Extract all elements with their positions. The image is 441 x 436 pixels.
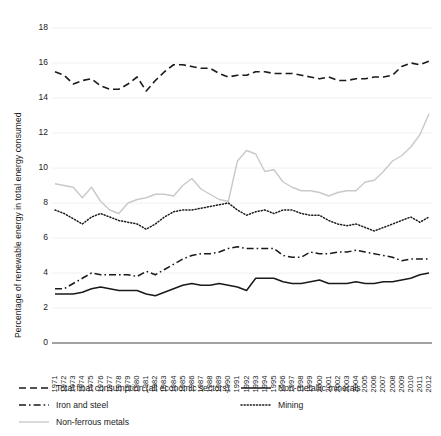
legend-item-non-ferrous-metals[interactable]: Non-ferrous metals bbox=[18, 415, 129, 429]
y-tick-label-10: 10 bbox=[22, 163, 48, 172]
legend-line-icon bbox=[18, 382, 50, 394]
y-tick-label-18: 18 bbox=[22, 23, 48, 32]
plot-area bbox=[52, 24, 432, 347]
legend-item-label: Mining bbox=[278, 400, 303, 410]
legend-line-icon bbox=[240, 382, 272, 394]
legend-item-label: Iron and steel bbox=[56, 400, 108, 410]
legend-item-iron-and-steel[interactable]: Iron and steel bbox=[18, 398, 108, 412]
renewable-energy-line-chart: Percentage of renewable energy in total … bbox=[0, 0, 441, 436]
legend-item-label: Total final consumption (all economic se… bbox=[56, 383, 229, 393]
legend-item-total-final-consumption-all-economic-sectors[interactable]: Total final consumption (all economic se… bbox=[18, 381, 229, 395]
y-tick-label-16: 16 bbox=[22, 58, 48, 67]
y-tick-label-4: 4 bbox=[22, 268, 48, 277]
x-axis-tick-labels: 1971197219731974197519761977197819791980… bbox=[52, 348, 432, 384]
series-line-iron-and-steel bbox=[55, 247, 429, 289]
legend-key-swatch bbox=[18, 382, 50, 394]
legend-item-label: Non-ferrous metals bbox=[56, 417, 129, 427]
y-tick-label-2: 2 bbox=[22, 303, 48, 312]
plot-svg bbox=[52, 24, 432, 347]
legend-line-icon bbox=[240, 399, 272, 411]
legend-key-swatch bbox=[18, 416, 50, 428]
y-tick-label-8: 8 bbox=[22, 198, 48, 207]
series-line-non-ferrous-metals bbox=[55, 114, 429, 214]
chart-legend: Total final consumption (all economic se… bbox=[18, 381, 438, 433]
legend-key-swatch bbox=[240, 382, 272, 394]
legend-item-mining[interactable]: Mining bbox=[240, 398, 303, 412]
y-tick-label-6: 6 bbox=[22, 233, 48, 242]
legend-item-non-metallic-minerals[interactable]: Non-metallic minerals bbox=[240, 381, 361, 395]
legend-item-label: Non-metallic minerals bbox=[278, 383, 361, 393]
y-axis-title-container: Percentage of renewable energy in total … bbox=[0, 28, 18, 344]
legend-line-icon bbox=[18, 399, 50, 411]
legend-line-icon bbox=[18, 416, 50, 428]
y-tick-label-0: 0 bbox=[22, 338, 48, 347]
series-line-mining bbox=[55, 203, 429, 231]
y-tick-label-12: 12 bbox=[22, 128, 48, 137]
y-axis-tick-labels: 024681012141618 bbox=[17, 0, 48, 436]
y-tick-label-14: 14 bbox=[22, 93, 48, 102]
legend-key-swatch bbox=[240, 399, 272, 411]
legend-key-swatch bbox=[18, 399, 50, 411]
series-line-non-metallic-minerals bbox=[55, 273, 429, 296]
series-line-total-final-consumption-all-economic-sectors bbox=[55, 61, 429, 91]
